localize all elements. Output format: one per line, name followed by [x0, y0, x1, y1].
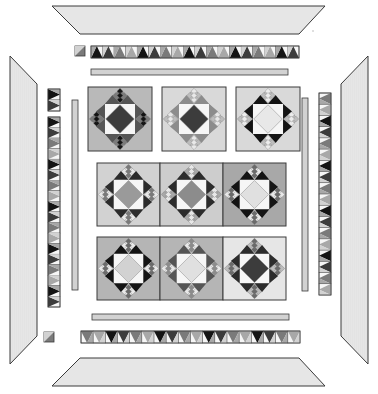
inner-strip-top [91, 69, 288, 75]
block-3-3 [223, 237, 286, 300]
block-3-2 [160, 237, 223, 300]
block-2-1 [97, 163, 160, 226]
block-1-2 [162, 87, 226, 151]
block-row-3 [97, 237, 286, 300]
quilt-diagram [0, 0, 378, 394]
quilt-blocks [88, 87, 300, 300]
pieced-border-bottom [81, 331, 300, 343]
outer-border-top [52, 6, 325, 34]
pieced-border-top [91, 46, 299, 58]
corner-square-top [75, 46, 85, 56]
corner-units-left [48, 89, 60, 111]
block-3-1 [97, 237, 160, 300]
block-2-3 [223, 163, 286, 226]
corner-square-bottom-left [44, 332, 54, 342]
block-2-2 [160, 163, 223, 226]
block-1-1 [88, 87, 152, 151]
block-row-1 [88, 87, 300, 151]
inner-strip-bottom [92, 314, 289, 320]
outer-border-left [10, 56, 37, 364]
pieced-border-left [48, 117, 60, 307]
block-1-3 [236, 87, 300, 151]
inner-strip-left [72, 100, 78, 290]
block-row-2 [97, 163, 286, 226]
outer-border-right [341, 56, 368, 364]
pieced-border-right [319, 93, 331, 295]
inner-strip-right [302, 98, 308, 291]
outer-border-bottom [52, 358, 325, 386]
